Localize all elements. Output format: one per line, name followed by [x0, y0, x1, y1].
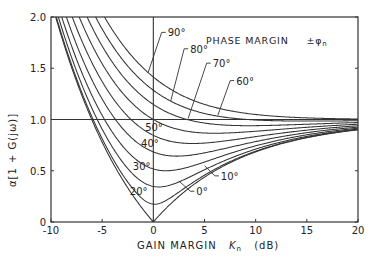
label-leader-line: [171, 49, 188, 101]
x-tick-label: 10: [249, 225, 262, 236]
curve-label: 0°: [196, 186, 207, 197]
chart: 0°10°20°30°40°50°60°70°80°90° -10-505101…: [0, 0, 371, 265]
x-tick-label: 0: [150, 225, 156, 236]
curve-phase-50: [51, 0, 358, 143]
curve-phase-30: [51, 0, 358, 171]
y-tick-label: 0: [40, 217, 46, 228]
curve-label: 50°: [145, 122, 163, 133]
x-tick-label: 20: [352, 225, 365, 236]
y-axis-title: α[1 + G(jω)]: [7, 113, 18, 187]
label-leader-line: [148, 32, 165, 72]
y-tick-label: 1.0: [30, 115, 46, 126]
curve-label: 40°: [141, 138, 159, 149]
y-tick-label: 1.5: [30, 63, 46, 74]
curve-label: 30°: [133, 161, 151, 172]
curve-phase-20: [51, 0, 358, 187]
x-tick-label: -5: [97, 225, 107, 236]
curve-phase-90: [51, 0, 358, 119]
curve-label: 10°: [221, 171, 239, 182]
curve-phase-80: [51, 0, 358, 121]
curve-labels: 0°10°20°30°40°50°60°70°80°90°: [130, 27, 254, 197]
y-tick-label: 0.5: [30, 166, 46, 177]
x-tick-label: 5: [201, 225, 207, 236]
curve-label: 20°: [130, 186, 148, 197]
x-tick-label: 15: [300, 225, 313, 236]
chart-title: PHASE MARGIN ±φn: [206, 35, 328, 48]
curve-label: 60°: [236, 76, 254, 87]
curve-label: 90°: [168, 27, 186, 38]
curve-phase-10: [51, 0, 358, 204]
curve-label: 70°: [213, 58, 231, 69]
x-axis-title: GAIN MARGIN Kn (dB): [137, 240, 279, 253]
y-tick-label: 2.0: [30, 12, 46, 23]
